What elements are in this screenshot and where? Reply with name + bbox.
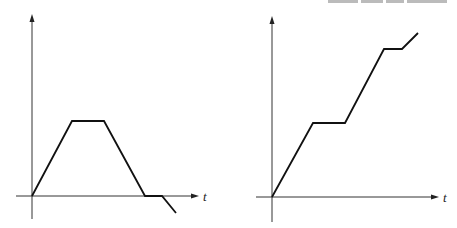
- figure: t t: [0, 0, 457, 228]
- right-x-axis-arrow-icon: [431, 195, 439, 200]
- left-x-axis-label: t: [203, 189, 207, 204]
- right-y-axis-arrow-icon: [270, 16, 275, 24]
- right-x-axis-label: t: [443, 190, 447, 205]
- left-x-axis-arrow-icon: [191, 194, 199, 199]
- left-y-axis-arrow-icon: [30, 14, 35, 22]
- right-curve: [272, 33, 418, 197]
- left-graph: t: [16, 14, 207, 219]
- left-curve: [32, 121, 176, 213]
- right-graph: t: [256, 16, 447, 222]
